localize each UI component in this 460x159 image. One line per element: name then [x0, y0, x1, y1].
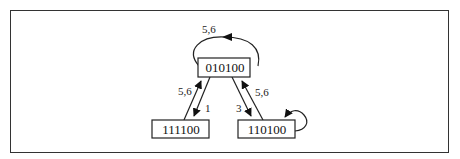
node-010100: 010100	[198, 58, 250, 77]
node-label: 010100	[206, 60, 245, 75]
edge-left-down: 1	[194, 77, 211, 116]
edge-line	[232, 77, 251, 116]
node-label: 110100	[248, 122, 287, 137]
node-111100: 111100	[152, 120, 209, 138]
arrowhead-icon	[222, 33, 232, 41]
edge-right-up: 5,6	[242, 81, 269, 120]
edge-label-top-self: 5,6	[202, 23, 216, 35]
edge-label-right-up: 5,6	[255, 86, 269, 98]
edge-right-down: 3	[232, 77, 251, 116]
state-graph: 5,6 5,6 1 3 5,6 010100 111100 110100	[0, 0, 460, 159]
edge-label-left-up: 5,6	[178, 85, 192, 97]
edge-left-up: 5,6	[178, 81, 201, 120]
node-110100: 110100	[238, 120, 295, 138]
edge-label-left-down: 1	[205, 102, 211, 114]
edge-label-right-down: 3	[236, 102, 242, 114]
node-label: 111100	[162, 122, 200, 137]
